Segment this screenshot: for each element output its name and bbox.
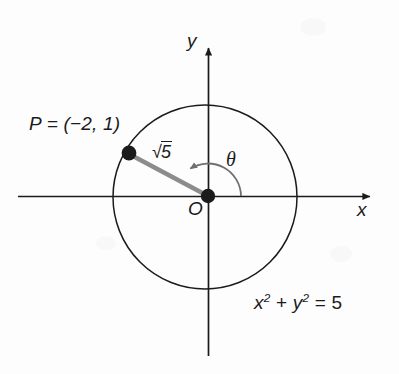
point-p-marker — [122, 146, 137, 161]
equation-equals: = — [309, 292, 331, 313]
diagram-canvas — [0, 0, 399, 374]
equation-x-base: x — [254, 292, 264, 313]
equation-y-base: y — [293, 292, 303, 313]
x-axis-label: x — [357, 199, 367, 221]
radicand-value: 5 — [161, 141, 172, 163]
point-p-label: P = (−2, 1) — [29, 113, 120, 135]
math-figure: P = (−2, 1) √5 θ O y x x2 + y2 = 5 — [0, 0, 399, 374]
y-axis-label: y — [187, 30, 197, 52]
equation-plus: + — [270, 292, 292, 313]
angle-theta-label: θ — [226, 148, 236, 171]
radius-length-label: √5 — [152, 141, 172, 163]
equation-value: 5 — [331, 292, 342, 313]
origin-label: O — [188, 198, 203, 220]
circle-equation-label: x2 + y2 = 5 — [254, 292, 342, 314]
